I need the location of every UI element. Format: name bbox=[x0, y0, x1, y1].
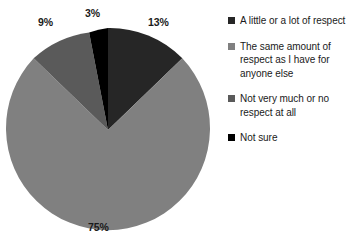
legend-item-not-very-much-or-no-respect[interactable]: Not very much or no respect at all bbox=[228, 92, 364, 119]
legend: A little or a lot of respect The same am… bbox=[228, 14, 364, 157]
legend-swatch-icon bbox=[228, 43, 235, 50]
pie-chart: 13% 3% 9% 75% A little or a lot of respe… bbox=[0, 0, 364, 247]
legend-swatch-icon bbox=[228, 134, 235, 141]
pie-svg bbox=[0, 0, 226, 247]
legend-swatch-icon bbox=[228, 17, 235, 24]
slice-label-3-percent: 3% bbox=[85, 8, 100, 19]
slice-label-75-percent: 75% bbox=[88, 222, 109, 233]
pie-plot-area: 13% 3% 9% 75% bbox=[0, 0, 226, 247]
legend-item-the-same-amount-of-respect[interactable]: The same amount of respect as I have for… bbox=[228, 40, 364, 81]
legend-swatch-icon bbox=[228, 95, 235, 102]
slice-label-13-percent: 13% bbox=[148, 17, 169, 28]
legend-item-not-sure[interactable]: Not sure bbox=[228, 131, 364, 145]
slice-label-9-percent: 9% bbox=[38, 17, 53, 28]
legend-item-label: Not sure bbox=[240, 131, 277, 145]
legend-item-a-little-or-a-lot-of-respect[interactable]: A little or a lot of respect bbox=[228, 14, 364, 28]
legend-item-label: The same amount of respect as I have for… bbox=[240, 40, 364, 81]
legend-item-label: A little or a lot of respect bbox=[240, 14, 345, 28]
legend-item-label: Not very much or no respect at all bbox=[240, 92, 364, 119]
